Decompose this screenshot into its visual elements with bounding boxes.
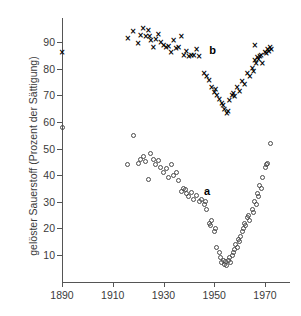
data-point-a (204, 207, 209, 212)
y-tick-mark (57, 95, 62, 96)
data-point-b: × (225, 108, 232, 115)
x-tick-mark (62, 282, 63, 287)
data-point-b: × (258, 52, 265, 59)
data-point-a (247, 218, 252, 223)
data-point-b: × (180, 52, 187, 59)
data-point-a (242, 221, 247, 226)
data-point-a (146, 177, 151, 182)
data-point-b: × (244, 70, 251, 77)
data-point-a (202, 202, 207, 207)
data-point-b: × (203, 73, 210, 80)
data-point-b: × (147, 37, 154, 44)
data-point-a (171, 173, 176, 178)
data-point-a (136, 161, 141, 166)
data-point-b: × (249, 65, 256, 72)
data-point-b: × (185, 53, 192, 60)
data-point-b: × (223, 110, 230, 117)
data-point-b: × (146, 33, 153, 40)
data-point-b: × (251, 42, 258, 49)
data-point-a (208, 223, 213, 228)
data-point-b: × (160, 42, 167, 49)
scatter-plot-figure: gelöster Sauerstoff (Prozent der Sättigu… (0, 0, 301, 316)
data-point-b: × (150, 44, 157, 51)
data-point-b: × (221, 106, 228, 113)
data-point-a (243, 223, 248, 228)
data-point-b: × (253, 60, 260, 67)
data-point-b: × (130, 28, 137, 35)
data-point-a (164, 166, 169, 171)
x-tick-label: 1930 (142, 290, 186, 301)
data-point-a (209, 218, 214, 223)
data-point-a (241, 226, 246, 231)
data-point-b: × (211, 89, 218, 96)
data-point-a (189, 190, 194, 195)
data-point-a (138, 157, 143, 162)
data-point-a (233, 242, 238, 247)
data-point-a (246, 213, 251, 218)
x-tick-label: 1890 (40, 290, 84, 301)
y-tick-mark (57, 69, 62, 70)
data-point-a (260, 175, 265, 180)
data-point-a (197, 199, 202, 204)
data-point-a (199, 197, 204, 202)
data-point-a (255, 191, 260, 196)
y-tick-label: 50 (21, 144, 55, 155)
data-point-a (143, 159, 148, 164)
y-tick-label: 30 (21, 197, 55, 208)
data-point-a (191, 197, 196, 202)
data-point-a (158, 165, 163, 170)
data-point-a (232, 247, 237, 252)
data-point-b: × (239, 78, 246, 85)
data-point-b: × (168, 49, 175, 56)
data-point-a (213, 226, 218, 231)
data-point-b: × (236, 88, 243, 95)
series-label-a: a (204, 186, 210, 197)
data-point-a (230, 253, 235, 258)
data-point-b: × (206, 77, 213, 84)
data-point-b: × (229, 92, 236, 99)
data-point-a (148, 151, 153, 156)
data-point-a (245, 215, 250, 220)
data-point-b: × (246, 73, 253, 80)
data-point-a (194, 193, 199, 198)
data-point-b: × (163, 44, 170, 51)
data-point-b: × (170, 37, 177, 44)
data-point-a (217, 250, 222, 255)
x-tick-label: 1970 (243, 290, 287, 301)
data-point-b: × (216, 96, 223, 103)
data-point-b: × (251, 57, 258, 64)
data-point-a (240, 229, 245, 234)
data-point-a (214, 245, 219, 250)
y-axis-line (62, 18, 63, 282)
data-point-a (131, 133, 136, 138)
x-tick-label: 1910 (91, 290, 135, 301)
y-tick-label: 40 (21, 170, 55, 181)
y-tick-mark (57, 228, 62, 229)
data-point-b: × (230, 90, 237, 97)
y-tick-label: 10 (21, 250, 55, 261)
data-point-a (183, 187, 188, 192)
data-point-a (223, 259, 228, 264)
data-point-a (125, 162, 130, 167)
data-point-b: × (263, 50, 270, 57)
data-point-a (224, 263, 229, 268)
data-point-a (207, 221, 212, 226)
data-point-a (218, 255, 223, 260)
data-point-b: × (201, 70, 208, 77)
data-point-b: × (264, 46, 271, 53)
data-point-b: × (175, 44, 182, 51)
data-point-a (231, 250, 236, 255)
data-point-b: × (262, 49, 269, 56)
data-point-b: × (190, 52, 197, 59)
data-point-a (268, 141, 273, 146)
data-point-a (263, 165, 268, 170)
data-point-a (184, 191, 189, 196)
data-point-b: × (188, 52, 195, 59)
data-point-b: × (196, 53, 203, 60)
x-tick-label: 1950 (192, 290, 236, 301)
data-point-b: × (140, 25, 147, 32)
data-point-a (250, 207, 255, 212)
y-tick-label: 70 (21, 90, 55, 101)
data-point-a (153, 162, 158, 167)
data-point-b: × (241, 81, 248, 88)
